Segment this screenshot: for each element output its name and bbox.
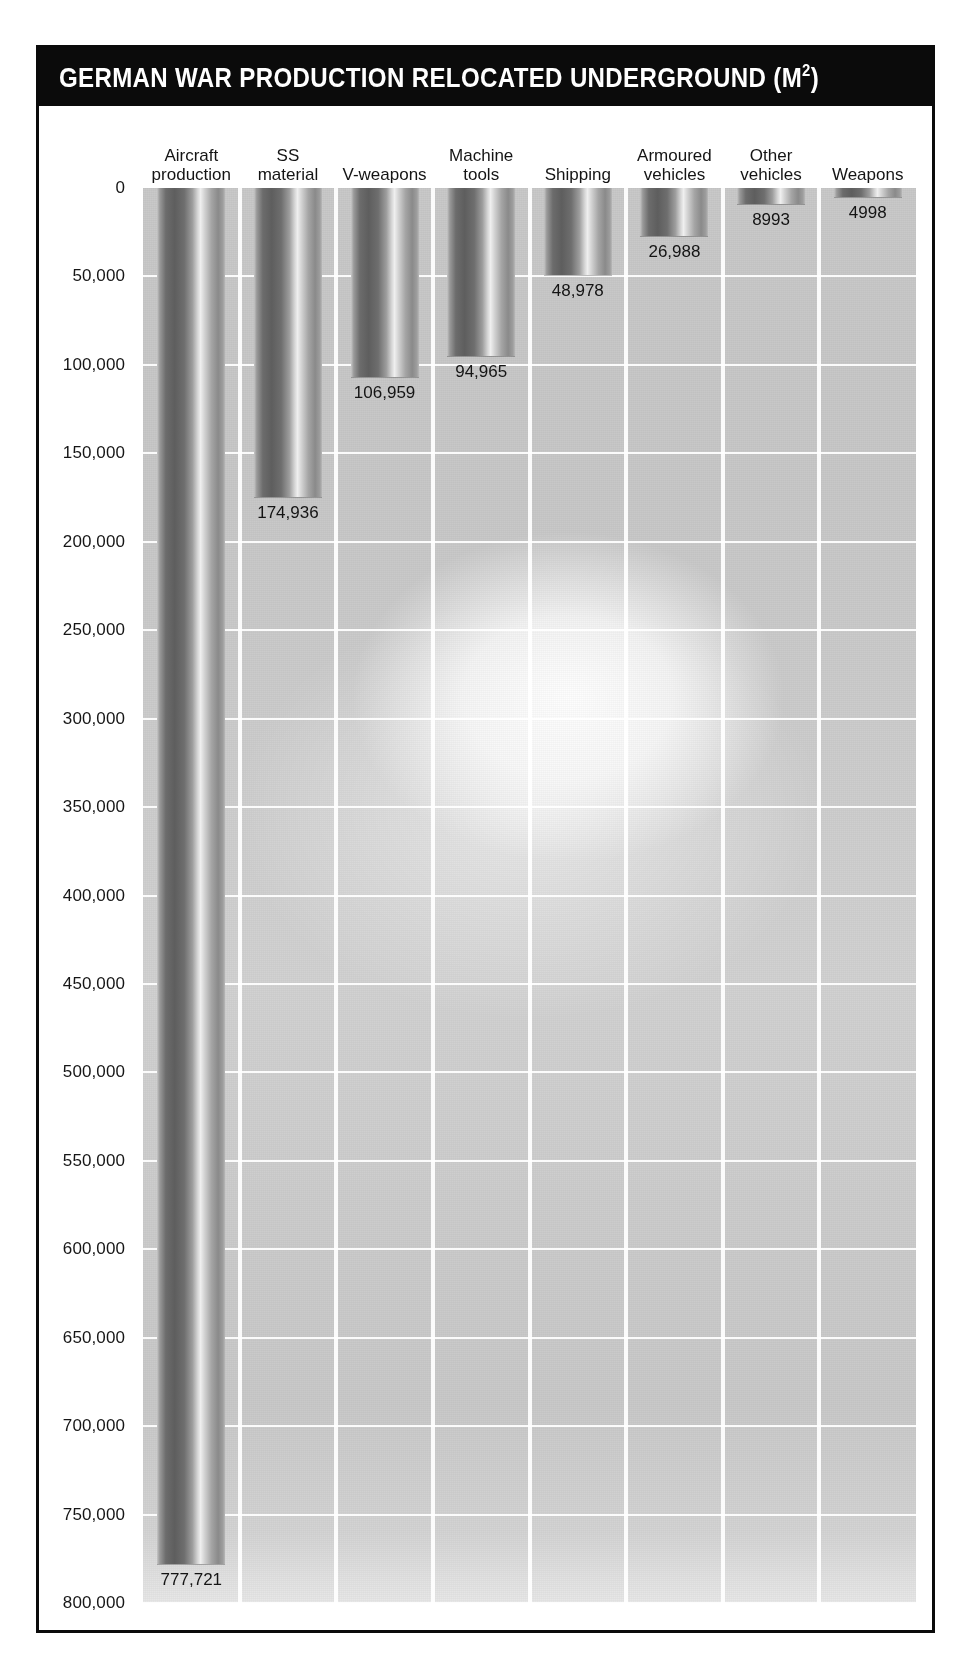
y-axis-tick-label: 750,000 — [63, 1505, 125, 1525]
plot-area: 777,721174,936106,95994,96548,97826,9888… — [143, 188, 916, 1603]
y-axis-tick-label: 450,000 — [63, 974, 125, 994]
chart-title-main: GERMAN WAR PRODUCTION RELOCATED UNDERGRO… — [59, 62, 802, 93]
chart-title-superscript: 2 — [802, 60, 811, 80]
y-axis-tick-label: 650,000 — [63, 1328, 125, 1348]
chart-area: 777,721174,936106,95994,96548,97826,9888… — [39, 106, 932, 1630]
bar-column[interactable]: 174,936 — [240, 188, 337, 1603]
y-axis-tick-label: 500,000 — [63, 1062, 125, 1082]
bar[interactable] — [640, 188, 708, 236]
bar-value-label: 174,936 — [257, 503, 318, 523]
y-axis-tick-label: 100,000 — [63, 355, 125, 375]
y-axis-tick-label: 800,000 — [63, 1593, 125, 1613]
bar-column[interactable]: 26,988 — [626, 188, 723, 1603]
y-axis-tick-label: 300,000 — [63, 709, 125, 729]
category-label: Machine tools — [449, 146, 513, 184]
bar-column[interactable]: 48,978 — [530, 188, 627, 1603]
y-axis-tick-label: 400,000 — [63, 886, 125, 906]
bar-column[interactable]: 94,965 — [433, 188, 530, 1603]
y-axis-tick-label: 600,000 — [63, 1239, 125, 1259]
y-axis-tick-label: 50,000 — [72, 266, 125, 286]
y-axis-tick-label: 700,000 — [63, 1416, 125, 1436]
bar[interactable] — [737, 188, 805, 204]
bar-column[interactable]: 4998 — [819, 188, 916, 1603]
y-axis-tick-label: 550,000 — [63, 1151, 125, 1171]
y-axis-tick-label: 350,000 — [63, 797, 125, 817]
x-axis-category-labels: Aircraft productionSS materialV-weaponsM… — [143, 106, 916, 188]
category-label: SS material — [258, 146, 318, 184]
bar-column[interactable]: 106,959 — [336, 188, 433, 1603]
bar-column[interactable]: 8993 — [723, 188, 820, 1603]
bar[interactable] — [254, 188, 322, 497]
chart-title-suffix: ) — [811, 62, 819, 93]
category-label: Armoured vehicles — [637, 146, 712, 184]
bar[interactable] — [447, 188, 515, 356]
bar-value-label: 106,959 — [354, 383, 415, 403]
y-axis-tick-label: 200,000 — [63, 532, 125, 552]
y-axis-tick-label: 150,000 — [63, 443, 125, 463]
bar[interactable] — [351, 188, 419, 377]
bar-value-label: 4998 — [849, 203, 887, 223]
figure-frame: GERMAN WAR PRODUCTION RELOCATED UNDERGRO… — [36, 45, 935, 1633]
bar-value-label: 94,965 — [455, 362, 507, 382]
y-axis: 050,000100,000150,000200,000250,000300,0… — [39, 188, 135, 1603]
category-label: Other vehicles — [740, 146, 801, 184]
bar[interactable] — [544, 188, 612, 275]
category-label: Aircraft production — [152, 146, 231, 184]
category-label: V-weapons — [343, 165, 427, 184]
y-axis-tick-label: 250,000 — [63, 620, 125, 640]
y-axis-tick-label: 0 — [115, 178, 125, 198]
bar[interactable] — [834, 188, 902, 197]
bar-column[interactable]: 777,721 — [143, 188, 240, 1603]
category-label: Weapons — [832, 165, 904, 184]
bar[interactable] — [157, 188, 225, 1564]
bar-value-label: 8993 — [752, 210, 790, 230]
title-banner: GERMAN WAR PRODUCTION RELOCATED UNDERGRO… — [39, 48, 932, 106]
bar-value-label: 26,988 — [648, 242, 700, 262]
bar-value-label: 777,721 — [161, 1570, 222, 1590]
chart-title: GERMAN WAR PRODUCTION RELOCATED UNDERGRO… — [59, 60, 819, 93]
bar-value-label: 48,978 — [552, 281, 604, 301]
category-label: Shipping — [545, 165, 611, 184]
